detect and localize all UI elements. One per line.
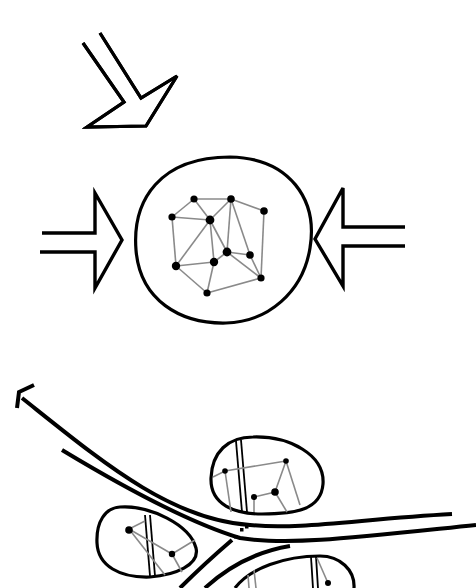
- node: [172, 262, 180, 270]
- cluster-left: [97, 507, 196, 577]
- arrow-right-icon: [315, 188, 405, 286]
- node: [203, 289, 210, 296]
- node: [210, 258, 218, 266]
- node: [223, 248, 232, 257]
- node: [168, 213, 175, 220]
- node: [283, 458, 289, 464]
- top-section: [40, 33, 405, 323]
- cluster-upper: [211, 437, 323, 514]
- node: [222, 468, 228, 474]
- node: [227, 195, 235, 203]
- enclosure-circle: [136, 157, 312, 323]
- cluster-lower: [235, 556, 354, 588]
- node: [125, 526, 133, 534]
- node: [246, 251, 254, 259]
- node: [190, 195, 197, 202]
- node: [325, 580, 331, 586]
- bottom-section: [17, 385, 476, 588]
- node: [260, 207, 268, 215]
- node: [169, 551, 175, 557]
- node: [257, 274, 264, 281]
- diagram-canvas: [0, 0, 476, 588]
- arrow-left-icon: [40, 193, 122, 288]
- node: [206, 216, 215, 225]
- node: [271, 488, 279, 496]
- node: [251, 494, 257, 500]
